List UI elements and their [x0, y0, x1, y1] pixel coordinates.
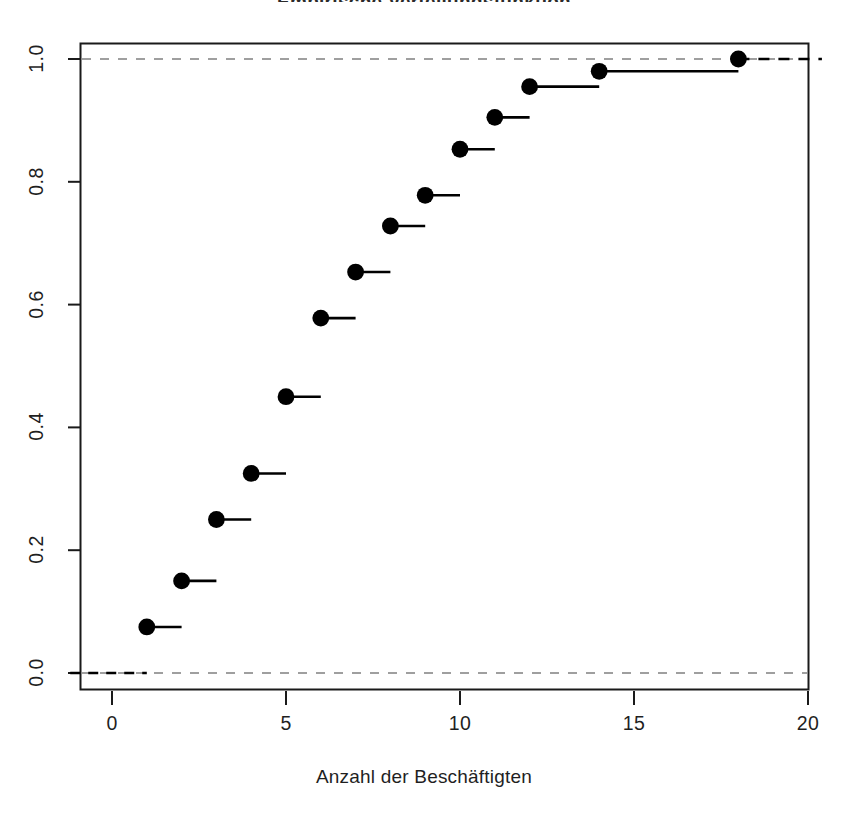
data-point [243, 465, 260, 482]
data-point [382, 218, 399, 235]
y-tick-label: 0.6 [25, 280, 48, 328]
y-axis-ticks [68, 59, 81, 673]
x-tick-label: 0 [72, 712, 152, 735]
x-axis-ticks [112, 691, 808, 705]
data-point [521, 78, 538, 95]
y-tick-label: 0.8 [25, 157, 48, 205]
y-tick-label: 1.0 [25, 35, 48, 83]
x-tick-label: 15 [594, 712, 674, 735]
data-point [312, 310, 329, 327]
y-tick-label: 0.0 [25, 649, 48, 697]
data-point [417, 187, 434, 204]
x-tick-label: 5 [246, 712, 326, 735]
data-point [208, 511, 225, 528]
data-point [138, 619, 155, 636]
y-tick-label: 0.4 [25, 403, 48, 451]
x-tick-label: 10 [420, 712, 500, 735]
y-tick-label: 0.2 [25, 526, 48, 574]
data-point [730, 51, 747, 68]
x-tick-label: 20 [768, 712, 848, 735]
data-point [173, 573, 190, 590]
data-point [452, 141, 469, 158]
x-axis-title: Anzahl der Beschäftigten [0, 766, 848, 788]
plot-border [81, 44, 809, 690]
chart-figure: Empirische Verteilungsfunktion 0.00.20.4… [0, 0, 848, 823]
ecdf-data-points [138, 51, 746, 636]
data-point [278, 388, 295, 405]
data-point [486, 109, 503, 126]
data-point [591, 63, 608, 80]
data-point [347, 264, 364, 281]
plot-canvas [0, 0, 848, 823]
